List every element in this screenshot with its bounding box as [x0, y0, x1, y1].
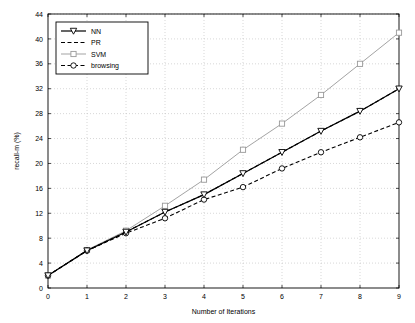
data-point-svm: [279, 121, 284, 126]
y-tick-label: 40: [35, 36, 43, 43]
x-tick-label: 9: [397, 293, 401, 300]
legend-marker-browsing: [71, 63, 76, 68]
data-point-browsing: [318, 150, 323, 155]
y-tick-label: 28: [35, 110, 43, 117]
x-tick-label: 4: [202, 293, 206, 300]
legend-label-pr[interactable]: PR: [91, 39, 101, 46]
y-tick-label: 12: [35, 210, 43, 217]
x-tick-label: 3: [163, 293, 167, 300]
data-point-svm: [318, 92, 323, 97]
x-tick-label: 6: [280, 293, 284, 300]
data-point-svm: [162, 203, 167, 208]
legend-label-svm[interactable]: SVM: [91, 51, 106, 58]
legend-marker-svm: [71, 51, 76, 56]
data-point-svm: [240, 147, 245, 152]
legend-label-browsing[interactable]: browsing: [91, 62, 119, 70]
x-tick-label: 8: [358, 293, 362, 300]
data-point-browsing: [162, 216, 167, 221]
y-tick-label: 16: [35, 185, 43, 192]
chart-container: 048121620242832364044 0123456789 NNPRSVM…: [0, 0, 415, 323]
chart-legend[interactable]: NNPRSVMbrowsing: [56, 22, 148, 74]
data-point-svm: [201, 177, 206, 182]
data-point-browsing: [357, 135, 362, 140]
x-axis-title: Number of Iterations: [192, 308, 256, 315]
y-tick-label: 24: [35, 135, 43, 142]
x-tick-label: 7: [319, 293, 323, 300]
y-tick-label: 36: [35, 60, 43, 67]
legend-label-nn[interactable]: NN: [91, 28, 101, 35]
x-tick-label: 1: [85, 293, 89, 300]
y-tick-label: 32: [35, 85, 43, 92]
y-axis-title: recall-m (%): [13, 132, 21, 170]
y-tick-label: 4: [39, 260, 43, 267]
data-point-browsing: [240, 184, 245, 189]
data-point-svm: [396, 30, 401, 35]
x-tick-label: 0: [46, 293, 50, 300]
data-point-svm: [357, 61, 362, 66]
y-tick-label: 44: [35, 11, 43, 18]
x-tick-label: 2: [124, 293, 128, 300]
y-tick-label: 0: [39, 285, 43, 292]
y-tick-label: 20: [35, 160, 43, 167]
data-point-browsing: [279, 166, 284, 171]
recall-vs-iterations-line-chart: 048121620242832364044 0123456789 NNPRSVM…: [0, 0, 415, 323]
data-point-browsing: [396, 120, 401, 125]
x-tick-label: 5: [241, 293, 245, 300]
y-tick-label: 8: [39, 235, 43, 242]
